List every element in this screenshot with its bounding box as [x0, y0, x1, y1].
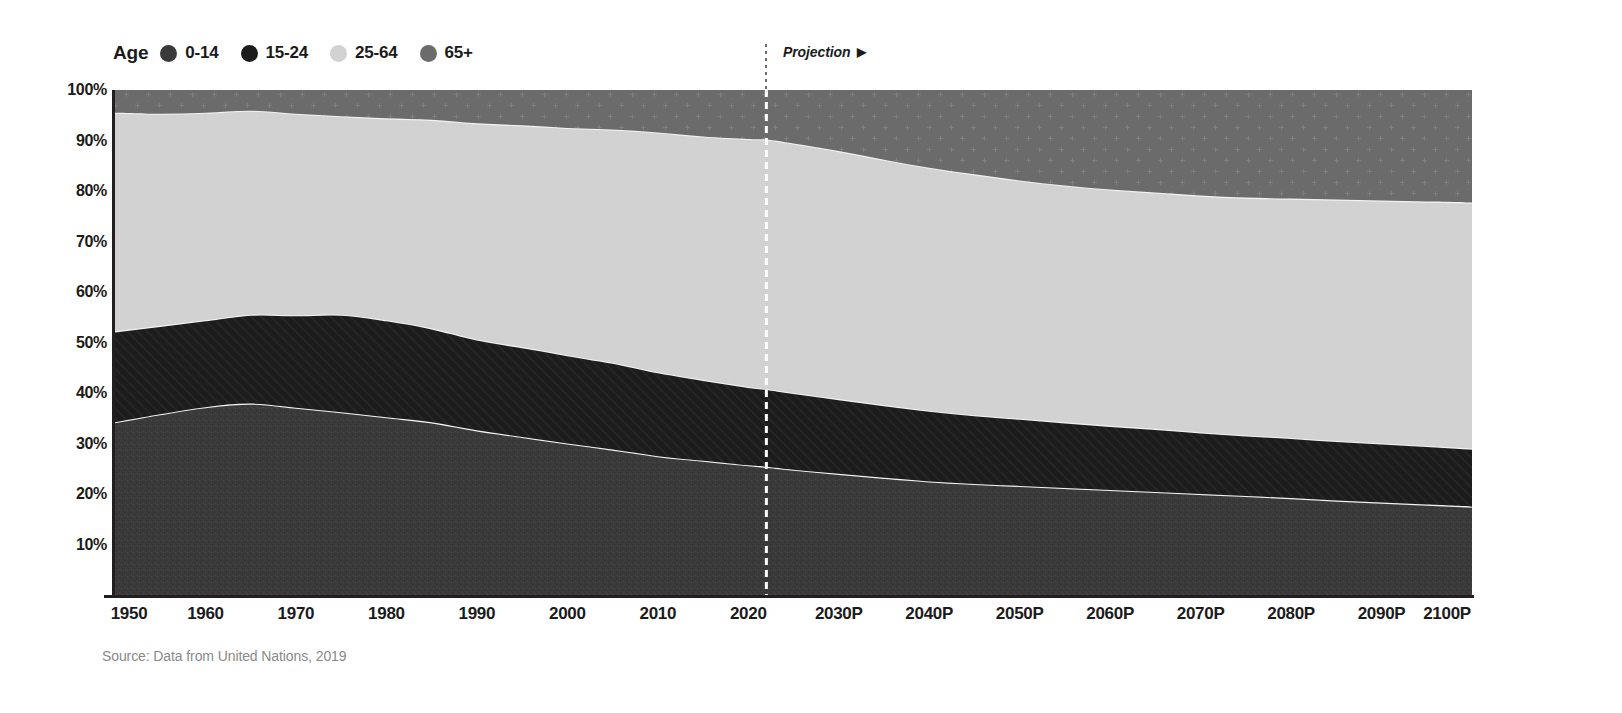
- y-axis-tick-label: 50%: [76, 334, 107, 352]
- x-axis-tick-label: 2100P: [1423, 604, 1471, 624]
- y-axis-tick-label: 60%: [76, 283, 107, 301]
- x-axis-tick-label: 1970: [278, 604, 315, 624]
- projection-label-text: Projection: [783, 44, 850, 60]
- x-axis-tick-label: 2090P: [1358, 604, 1406, 624]
- legend-item-65-plus[interactable]: 65+: [420, 43, 473, 63]
- x-axis: 195019601970198019902000201020202030P204…: [0, 604, 1622, 634]
- projection-annotation: Projection ▶: [783, 44, 866, 60]
- x-axis-tick-label: 2050P: [996, 604, 1044, 624]
- x-axis-tick-label: 2060P: [1086, 604, 1134, 624]
- y-axis-tick-label: 30%: [76, 435, 107, 453]
- legend-dot-icon: [420, 45, 437, 62]
- x-axis-tick-label: 2080P: [1267, 604, 1315, 624]
- y-axis: 100%90%80%70%60%50%40%30%20%10%: [0, 90, 107, 595]
- x-axis-tick-label: 2040P: [905, 604, 953, 624]
- area-bands: [115, 90, 1472, 595]
- plot-area: [115, 90, 1472, 595]
- legend-item-15-24[interactable]: 15-24: [241, 43, 308, 63]
- x-axis-tick-label: 2070P: [1177, 604, 1225, 624]
- x-axis-tick-label: 2000: [549, 604, 586, 624]
- stacked-area-svg: [115, 90, 1472, 595]
- legend-label-25-64: 25-64: [355, 43, 397, 63]
- x-axis-tick-label: 1990: [459, 604, 496, 624]
- legend-dot-icon: [330, 45, 347, 62]
- legend-item-0-14[interactable]: 0-14: [160, 43, 218, 63]
- source-note: Source: Data from United Nations, 2019: [102, 648, 346, 664]
- projection-divider-tail: [765, 44, 767, 90]
- x-axis-tick-label: 1960: [187, 604, 224, 624]
- projection-arrow-icon: ▶: [857, 46, 866, 58]
- x-axis-tick-label: 2010: [639, 604, 676, 624]
- population-age-structure-chart: Age 0-14 15-24 25-64 65+ Projection ▶ 10…: [0, 0, 1622, 713]
- legend-label-65-plus: 65+: [445, 43, 473, 63]
- legend-label-0-14: 0-14: [185, 43, 218, 63]
- y-axis-tick-label: 90%: [76, 132, 107, 150]
- x-axis-line: [104, 595, 1474, 598]
- legend-title: Age: [113, 42, 148, 64]
- y-axis-tick-label: 40%: [76, 384, 107, 402]
- legend-dot-icon: [241, 45, 258, 62]
- x-axis-tick-label: 1950: [111, 604, 148, 624]
- x-axis-tick-label: 1980: [368, 604, 405, 624]
- y-axis-tick-label: 70%: [76, 233, 107, 251]
- legend-dot-icon: [160, 45, 177, 62]
- legend-label-15-24: 15-24: [266, 43, 308, 63]
- legend-item-25-64[interactable]: 25-64: [330, 43, 397, 63]
- y-axis-tick-label: 20%: [76, 485, 107, 503]
- y-axis-tick-label: 10%: [76, 536, 107, 554]
- y-axis-tick-label: 100%: [67, 81, 107, 99]
- x-axis-tick-label: 2030P: [815, 604, 863, 624]
- x-axis-tick-label: 2020: [730, 604, 767, 624]
- chart-legend: Age 0-14 15-24 25-64 65+: [113, 40, 495, 66]
- y-axis-tick-label: 80%: [76, 182, 107, 200]
